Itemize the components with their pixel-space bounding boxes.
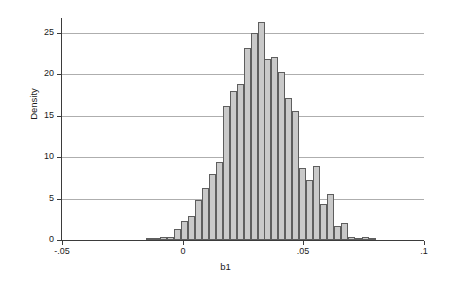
histogram-bar (195, 200, 202, 240)
histogram-bar (216, 162, 223, 240)
y-tick-mark (57, 199, 61, 200)
histogram-bar (320, 204, 327, 240)
histogram-bar (306, 180, 313, 240)
histogram-bar (285, 98, 292, 240)
x-tick-label: 0 (163, 247, 203, 256)
histogram-bar (251, 33, 258, 240)
histogram-bar (209, 174, 216, 240)
histogram-figure: 0510152025 -.050.05.1 Density b1 (0, 0, 451, 282)
x-tick-mark (183, 241, 184, 245)
histogram-bar (230, 91, 237, 240)
plot-area (62, 18, 424, 240)
x-tick-mark (424, 241, 425, 245)
histogram-bar (341, 223, 348, 240)
x-axis-line (62, 240, 424, 241)
x-tick-mark (303, 241, 304, 245)
histogram-bar (299, 168, 306, 240)
histogram-bar (313, 166, 320, 240)
histogram-bar (174, 229, 181, 240)
gridline-y-25 (62, 33, 424, 34)
x-tick-label: .1 (404, 247, 444, 256)
y-tick-mark (57, 116, 61, 117)
y-tick-mark (57, 33, 61, 34)
histogram-bar (271, 57, 278, 240)
y-tick-label: 10 (30, 152, 54, 161)
histogram-bar (181, 221, 188, 240)
y-tick-label: 25 (30, 28, 54, 37)
x-tick-label: -.05 (42, 247, 82, 256)
y-tick-label: 0 (30, 235, 54, 244)
histogram-bar (244, 48, 251, 240)
histogram-bar (278, 72, 285, 240)
x-tick-mark (62, 241, 63, 245)
y-axis-line (61, 18, 62, 241)
x-axis-title: b1 (0, 262, 451, 272)
histogram-bar (334, 226, 341, 240)
x-tick-label: .05 (283, 247, 323, 256)
y-tick-mark (57, 74, 61, 75)
y-tick-label: 5 (30, 194, 54, 203)
histogram-bar (202, 188, 209, 240)
y-tick-mark (57, 157, 61, 158)
histogram-bar (264, 59, 271, 240)
histogram-bar (237, 84, 244, 240)
y-tick-mark (57, 240, 61, 241)
y-axis-title: Density (29, 69, 39, 139)
